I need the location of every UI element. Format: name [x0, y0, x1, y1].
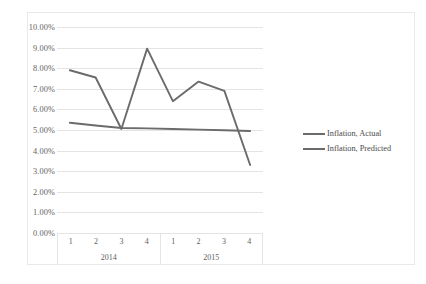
x-axis-year-group: 12342014 — [57, 233, 160, 265]
x-axis-quarter-label: 3 — [211, 234, 236, 250]
chart-legend: Inflation, ActualInflation, Predicted — [303, 126, 411, 156]
legend-item[interactable]: Inflation, Predicted — [303, 141, 411, 156]
x-axis-labels: 1234201412342015 — [57, 233, 263, 265]
y-axis-tick-label: 5.00% — [33, 126, 55, 135]
series-line — [70, 49, 250, 165]
legend-line-icon — [303, 133, 325, 135]
y-axis-tick-label: 1.00% — [33, 208, 55, 217]
y-axis-tick-label: 10.00% — [29, 23, 55, 32]
x-axis-year-label: 2015 — [161, 250, 263, 266]
x-axis-quarter-label: 2 — [186, 234, 211, 250]
x-axis-quarter-label: 4 — [237, 234, 262, 250]
y-axis-tick-label: 8.00% — [33, 64, 55, 73]
y-axis-tick-label: 6.00% — [33, 105, 55, 114]
y-axis-labels: 10.00%9.00%8.00%7.00%6.00%5.00%4.00%3.00… — [14, 27, 55, 233]
x-axis-quarter-row: 1234 — [161, 234, 263, 250]
x-axis-quarter-label: 4 — [134, 234, 159, 250]
y-axis-tick-label: 0.00% — [33, 229, 55, 238]
y-axis-tick-label: 4.00% — [33, 146, 55, 155]
inflation-line-chart: 10.00%9.00%8.00%7.00%6.00%5.00%4.00%3.00… — [0, 0, 426, 284]
legend-label: Inflation, Actual — [327, 129, 381, 138]
legend-line-icon — [303, 148, 325, 150]
series-layer — [57, 27, 263, 233]
legend-label: Inflation, Predicted — [327, 144, 391, 153]
series-line — [70, 123, 250, 131]
x-axis-quarter-label: 1 — [161, 234, 186, 250]
x-axis-quarter-label: 2 — [83, 234, 108, 250]
x-axis-year-label: 2014 — [58, 250, 160, 266]
legend-item[interactable]: Inflation, Actual — [303, 126, 411, 141]
x-axis-year-group: 12342015 — [160, 233, 264, 265]
y-axis-tick-label: 7.00% — [33, 84, 55, 93]
y-axis-tick-label: 3.00% — [33, 167, 55, 176]
x-axis-quarter-label: 1 — [58, 234, 83, 250]
y-axis-tick-label: 2.00% — [33, 187, 55, 196]
y-axis-tick-label: 9.00% — [33, 43, 55, 52]
x-axis-quarter-label: 3 — [109, 234, 134, 250]
x-axis-quarter-row: 1234 — [58, 234, 160, 250]
